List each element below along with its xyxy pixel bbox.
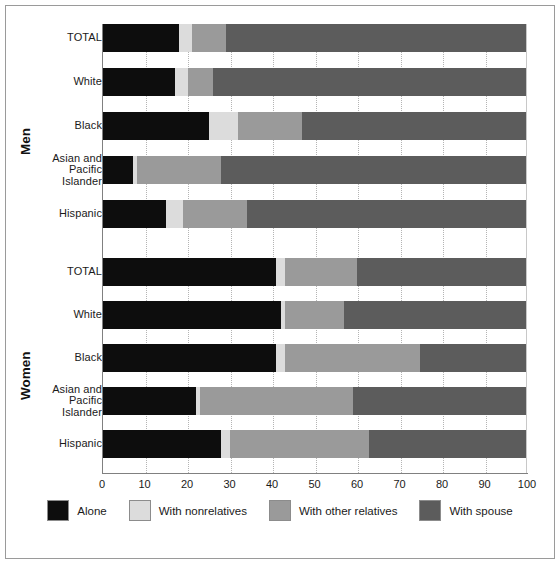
category-label-men-white: White [8,68,102,96]
bar-row [103,200,526,228]
x-tick-label-50: 50 [295,478,335,490]
category-label-text: Black [14,352,102,364]
bar-segment-alone [103,344,276,372]
chart-page: Men Women TOTAL White Black Asian and Pa… [0,0,560,564]
category-label-women-black: Black [8,344,102,372]
bar-segment-with-other-relatives [238,112,301,140]
bar-segment-with-spouse [247,200,526,228]
bar-segment-with-other-relatives [137,156,222,184]
legend-label: Alone [77,505,106,517]
bar-segment-with-other-relatives [285,344,420,372]
x-tick-label-70: 70 [380,478,420,490]
bar-segment-alone [103,24,179,52]
bar-segment-with-nonrelatives [179,24,192,52]
x-tick-label-0: 0 [82,478,122,490]
category-label-text: Hispanic [14,208,102,220]
bar-row [103,430,526,458]
category-label-text: White [14,76,102,88]
legend-swatch-icon [47,500,69,521]
bar-row [103,258,526,286]
bar-segment-with-other-relatives [188,68,213,96]
bar-segment-with-spouse [302,112,526,140]
plot-area [102,24,527,473]
x-tick-label-90: 90 [465,478,505,490]
legend-item-with-nonrelatives[interactable]: With nonrelatives [129,500,247,521]
bar-segment-alone [103,430,221,458]
category-label-text: Black [14,120,102,132]
bar-segment-with-nonrelatives [276,344,284,372]
bar-segment-with-spouse [353,387,526,415]
bar-segment-with-nonrelatives [175,68,188,96]
x-tick-label-30: 30 [210,478,250,490]
bar-segment-with-other-relatives [285,301,344,329]
chart-legend: AloneWith nonrelativesWith other relativ… [0,500,560,521]
category-label-text: Hispanic [14,438,102,450]
bar-segment-alone [103,112,209,140]
bar-segment-alone [103,156,133,184]
bar-row [103,112,526,140]
bar-segment-with-spouse [221,156,526,184]
category-label-women-total: TOTAL [8,258,102,286]
bar-row [103,156,526,184]
bar-row [103,301,526,329]
bar-segment-with-spouse [226,24,526,52]
bar-segment-with-spouse [369,430,526,458]
x-tick-label-60: 60 [337,478,377,490]
category-label-men-hispanic: Hispanic [8,200,102,228]
legend-label: With other relatives [299,505,397,517]
category-label-women-white: White [8,301,102,329]
bar-row [103,68,526,96]
asian-label-line-3: Islander [14,176,102,188]
legend-label: With nonrelatives [159,505,247,517]
legend-swatch-icon [129,500,151,521]
category-label-men-asian-pacific-islander: Asian and Pacific Islander [8,156,102,184]
legend-item-with-spouse[interactable]: With spouse [419,500,512,521]
bar-segment-with-other-relatives [192,24,226,52]
x-tick-label-100: 100 [507,478,547,490]
bar-segment-with-spouse [420,344,526,372]
bar-segment-with-spouse [357,258,526,286]
bar-segment-alone [103,68,175,96]
bar-segment-with-nonrelatives [276,258,284,286]
bar-segment-with-spouse [213,68,526,96]
category-label-text: White [14,309,102,321]
bar-segment-with-other-relatives [285,258,357,286]
x-axis-line [102,473,528,474]
x-tick-label-80: 80 [422,478,462,490]
legend-swatch-icon [269,500,291,521]
category-label-text: Asian and Pacific Islander [14,384,102,419]
category-label-women-asian-pacific-islander: Asian and Pacific Islander [8,387,102,415]
bar-segment-with-nonrelatives [221,430,229,458]
bar-row [103,344,526,372]
bar-segment-with-other-relatives [230,430,370,458]
bar-segment-with-spouse [344,301,526,329]
legend-label: With spouse [449,505,512,517]
bar-segment-alone [103,301,281,329]
category-label-text: TOTAL [14,266,102,278]
stacked-bar-chart: Men Women TOTAL White Black Asian and Pa… [0,0,560,564]
x-tick-label-40: 40 [252,478,292,490]
bar-row [103,387,526,415]
category-label-text: Asian and Pacific Islander [14,153,102,188]
bar-segment-alone [103,258,276,286]
legend-swatch-icon [419,500,441,521]
category-label-text: TOTAL [14,32,102,44]
bar-segment-with-other-relatives [183,200,246,228]
bar-row [103,24,526,52]
legend-item-alone[interactable]: Alone [47,500,106,521]
bar-segment-with-nonrelatives [166,200,183,228]
category-label-men-total: TOTAL [8,24,102,52]
category-label-men-black: Black [8,112,102,140]
x-tick-label-10: 10 [125,478,165,490]
x-tick-label-20: 20 [167,478,207,490]
category-label-women-hispanic: Hispanic [8,430,102,458]
bar-segment-alone [103,387,196,415]
bar-segment-with-other-relatives [200,387,352,415]
bar-segment-alone [103,200,166,228]
legend-item-with-other-relatives[interactable]: With other relatives [269,500,397,521]
bar-segment-with-nonrelatives [209,112,239,140]
asian-label-line-3: Islander [14,407,102,419]
